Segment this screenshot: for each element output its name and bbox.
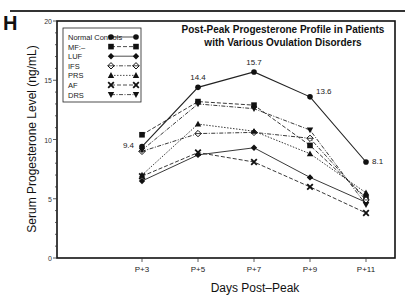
y-axis-label: Serum Progesterone Level (ng/mL) [25, 39, 39, 239]
series-af [139, 150, 369, 216]
series-drs [139, 101, 369, 208]
y-tick-label: 5 [48, 196, 52, 203]
x-tick-label: P+11 [357, 265, 376, 274]
series-luf [139, 145, 369, 206]
data-label: 14.4 [190, 73, 206, 82]
legend-label: Normal Controls [68, 33, 122, 42]
x-tick-label: P+7 [247, 265, 262, 274]
y-tick-label: 10 [44, 137, 52, 144]
x-axis-label: Days Post–Peak [180, 281, 330, 295]
chart-title: with Various Ovulation Disorders [203, 37, 362, 48]
x-tick-label: P+5 [191, 265, 206, 274]
y-tick-label: 0 [48, 255, 52, 262]
series-prs [139, 121, 369, 196]
chart-title: Post-Peak Progesterone Profile in Patien… [182, 24, 385, 35]
data-label: 15.7 [246, 58, 262, 67]
legend-label: PRS [68, 71, 83, 80]
legend: Normal ControlsMF:–LUFIFSPRSAFDRS [63, 28, 141, 102]
legend-label: MF:– [68, 43, 86, 52]
y-tick-label: 15 [44, 77, 52, 84]
line-chart: 05101520P+3P+5P+7P+9P+11Post-Peak Proges… [0, 0, 409, 299]
legend-label: AF [68, 81, 78, 90]
x-tick-label: P+3 [135, 265, 150, 274]
legend-label: LUF [68, 52, 83, 61]
x-tick-label: P+9 [303, 265, 318, 274]
data-label: 13.6 [316, 87, 332, 96]
data-label: 8.1 [372, 157, 384, 166]
legend-label: IFS [68, 62, 80, 71]
legend-label: DRS [68, 91, 84, 100]
y-tick-label: 20 [44, 18, 52, 25]
data-label: 9.4 [123, 141, 135, 150]
